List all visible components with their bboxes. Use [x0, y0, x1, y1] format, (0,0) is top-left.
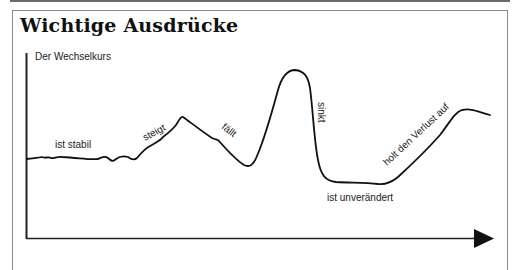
y-axis-label: Der Wechselkurs — [35, 51, 111, 62]
x-axis-arrow-icon — [474, 229, 494, 248]
label-ist-unveraendert: ist unverändert — [327, 192, 393, 203]
label-steigt: steigt — [141, 122, 167, 143]
label-faellt: fällt — [220, 121, 239, 139]
label-ist-stabil: ist stabil — [55, 139, 91, 150]
label-sinkt: sinkt — [316, 102, 327, 123]
